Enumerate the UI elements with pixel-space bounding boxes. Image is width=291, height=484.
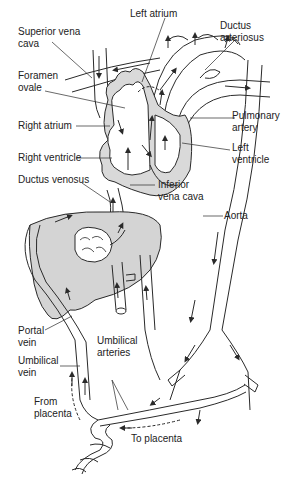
liver: [29, 212, 161, 319]
label-right-ventricle: Right ventricle: [18, 152, 81, 164]
label-umbilical-arteries: Umbilical arteries: [97, 335, 138, 359]
label-left-atrium: Left atrium: [130, 8, 177, 20]
heart: [100, 69, 192, 196]
umbilical-cord: [72, 420, 113, 474]
label-ductus-venosus: Ductus venosus: [18, 174, 89, 186]
fetal-circulation-diagram: Superior vena cava Left atrium Ductus ar…: [0, 0, 291, 484]
umbilical-arteries: [98, 385, 246, 428]
label-pulmonary-artery: Pulmonary artery: [232, 110, 280, 134]
label-umbilical-vein: Umbilical vein: [18, 355, 59, 379]
label-foramen-ovale: Foramen ovale: [18, 70, 58, 94]
label-aorta: Aorta: [224, 210, 248, 222]
label-left-ventricle: Left ventricle: [232, 142, 269, 166]
label-superior-vena-cava: Superior vena cava: [18, 26, 80, 50]
label-ductus-arteriosus: Ductus arteriosus: [220, 20, 264, 44]
label-portal-vein: Portal vein: [18, 325, 44, 349]
label-to-placenta: To placenta: [131, 433, 182, 445]
label-right-atrium: Right atrium: [18, 120, 72, 132]
label-from-placenta: From placenta: [34, 396, 72, 420]
iliac-vessels: [140, 255, 258, 410]
label-inferior-vena-cava: Inferior vena cava: [158, 179, 204, 203]
